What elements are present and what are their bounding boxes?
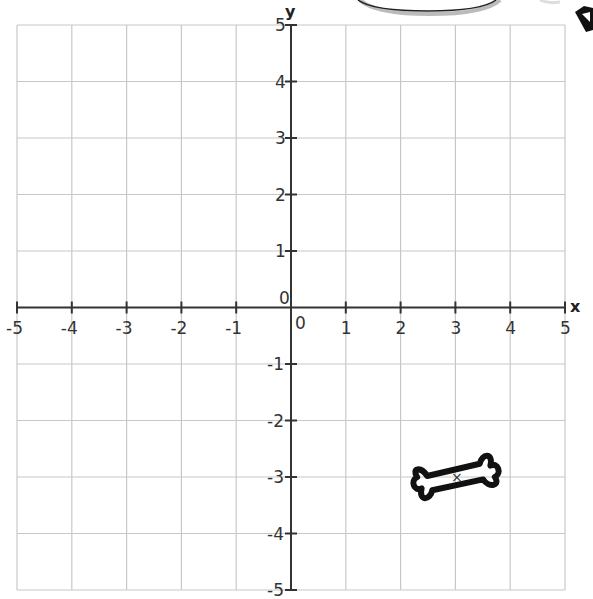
x-tick-label: -1 bbox=[225, 318, 242, 338]
y-tick-label: 1 bbox=[275, 241, 286, 261]
decorative-character-fragment bbox=[575, 6, 593, 32]
y-tick-label: -5 bbox=[267, 580, 284, 599]
x-tick-label: 4 bbox=[505, 318, 516, 338]
y-tick-label: -2 bbox=[267, 411, 284, 431]
y-tick-label: -3 bbox=[267, 467, 284, 487]
origin-label-lower: 0 bbox=[295, 313, 306, 333]
x-tick-label: -3 bbox=[116, 318, 133, 338]
x-axis-label: x bbox=[570, 297, 581, 316]
x-tick-label: -2 bbox=[170, 318, 187, 338]
bubble-tail bbox=[540, 0, 560, 3]
center-marker: × bbox=[451, 469, 463, 485]
y-tick-label: -4 bbox=[267, 524, 284, 544]
x-tick-label: 1 bbox=[341, 318, 352, 338]
x-tick-label: 3 bbox=[450, 318, 461, 338]
x-tick-label: -5 bbox=[6, 318, 23, 338]
axes bbox=[17, 25, 565, 590]
origin-label-upper: 0 bbox=[279, 288, 290, 308]
y-tick-label: -1 bbox=[267, 354, 284, 374]
y-tick-label: 4 bbox=[275, 72, 286, 92]
y-tick-label: 3 bbox=[275, 128, 286, 148]
x-tick-label: -4 bbox=[61, 318, 78, 338]
x-tick-label: 2 bbox=[396, 318, 407, 338]
y-tick-label: 2 bbox=[275, 185, 286, 205]
x-tick-label: 5 bbox=[560, 318, 571, 338]
y-axis-label: y bbox=[285, 2, 296, 21]
coordinate-grid: -5-4-3-2-11234554321-1-2-3-4-5 × x y 0 0 bbox=[0, 0, 593, 599]
